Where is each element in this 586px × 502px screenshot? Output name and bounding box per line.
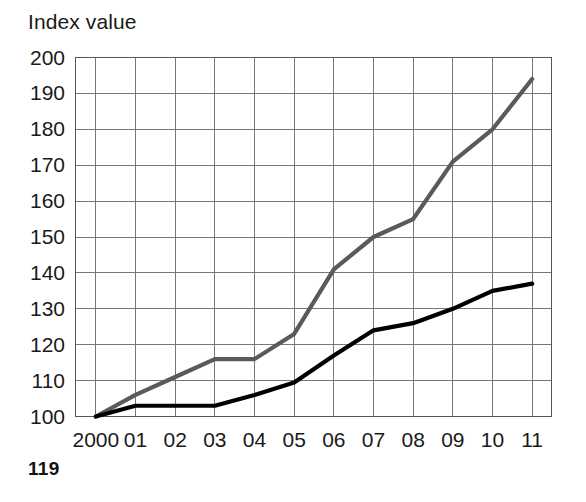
y-tick-label: 100 [3,406,65,427]
y-tick-label: 120 [3,334,65,355]
y-tick-label: 180 [3,118,65,139]
x-tick-label: 07 [362,429,385,450]
x-tick-label: 10 [481,429,504,450]
x-tick-label: 08 [401,429,424,450]
y-tick-label: 130 [3,298,65,319]
x-tick-label: 11 [521,429,543,450]
x-tick-label: 04 [243,429,266,450]
y-tick-label: 110 [3,370,65,391]
page-number: 119 [28,458,60,480]
y-tick-label: 160 [3,190,65,211]
y-tick-label: 150 [3,226,65,247]
y-tick-label: 170 [3,154,65,175]
gridlines [76,58,552,417]
y-tick-label: 200 [3,47,65,68]
x-tick-label: 09 [441,429,464,450]
x-tick-label: 06 [322,429,345,450]
x-tick-label: 01 [124,429,147,450]
x-tick-label: 2000 [72,429,119,450]
plot-area: 100110120130140150160170180190200 200001… [0,0,586,440]
plot-svg [0,0,586,440]
y-tick-label: 140 [3,262,65,283]
x-tick-label: 03 [203,429,226,450]
x-tick-label: 02 [163,429,186,450]
y-tick-label: 190 [3,82,65,103]
chart-figure: Index value 1001101201301401501601701801… [0,0,586,502]
x-tick-label: 05 [282,429,305,450]
